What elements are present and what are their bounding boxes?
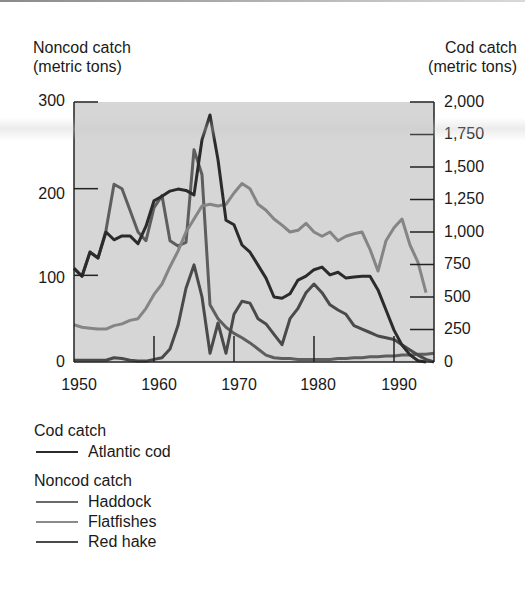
legend-label-atlantic-cod: Atlantic cod: [88, 442, 171, 462]
legend-group-noncod: Noncod catch: [34, 471, 171, 490]
legend-label-flatfishes: Flatfishes: [88, 512, 156, 532]
legend-swatch-haddock: [36, 501, 78, 503]
legend-label-red-hake: Red hake: [88, 532, 157, 552]
legend-item-flatfishes: Flatfishes: [34, 512, 171, 532]
legend-swatch-atlantic-cod: [36, 451, 78, 453]
legend-group-cod: Cod catch: [34, 421, 171, 440]
legend-item-red-hake: Red hake: [34, 532, 171, 552]
legend-label-haddock: Haddock: [88, 492, 151, 512]
legend: Cod catch Atlantic cod Noncod catch Hadd…: [34, 421, 171, 552]
legend-item-haddock: Haddock: [34, 492, 171, 512]
legend-swatch-red-hake: [36, 541, 78, 543]
legend-item-atlantic-cod: Atlantic cod: [34, 442, 171, 462]
plot-area: [74, 102, 434, 362]
legend-swatch-flatfishes: [36, 521, 78, 523]
